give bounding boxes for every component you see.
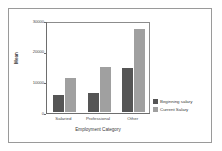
y-axis-tick-value: 20000	[20, 50, 44, 54]
legend-swatch-icon	[153, 107, 158, 112]
bar-beginning-salary[interactable]	[88, 93, 99, 112]
y-axis-tick-label: 10000	[20, 81, 44, 86]
bar-current-salary[interactable]	[134, 29, 145, 112]
bar-group	[53, 21, 76, 112]
bar-group	[88, 21, 111, 112]
bar-current-salary[interactable]	[100, 67, 111, 112]
y-axis-tick-mark	[44, 114, 46, 115]
y-axis-tick-value: 30000	[20, 20, 44, 24]
y-axis-tick-label: 20000	[20, 50, 44, 55]
x-axis-tick-label: Other	[113, 116, 153, 121]
legend-item[interactable]: Current Salary	[153, 105, 209, 113]
legend-swatch-icon	[153, 99, 158, 104]
chart-figure: 0100002000030000 Mean SalariedProfession…	[0, 0, 222, 151]
x-axis-title: Employment Category	[46, 127, 150, 132]
y-axis-tick-label: 30000	[20, 20, 44, 25]
y-axis-title: Mean	[14, 38, 19, 78]
x-axis-line	[46, 113, 150, 114]
bar-current-salary[interactable]	[65, 78, 76, 112]
bar-beginning-salary[interactable]	[122, 68, 133, 112]
plot-area	[46, 22, 150, 114]
y-axis-tick-label: 0	[20, 112, 44, 117]
bar-group	[122, 21, 145, 112]
bar-beginning-salary[interactable]	[53, 95, 64, 112]
legend-item-label: Current Salary	[160, 107, 188, 112]
chart-legend: Beginning salaryCurrent Salary	[153, 97, 209, 113]
legend-item[interactable]: Beginning salary	[153, 97, 209, 105]
legend-item-label: Beginning salary	[160, 99, 192, 104]
y-axis-tick-value: 10000	[20, 81, 44, 85]
y-axis-tick-value: 0	[20, 112, 44, 116]
y-axis-line	[46, 22, 47, 114]
